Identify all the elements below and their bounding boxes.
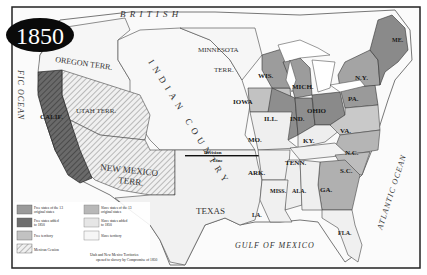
label-utah: UTAH TERR.	[76, 107, 116, 115]
legend-note-2: opened to slavery by Compromise of 1850	[96, 258, 157, 262]
label-pa: PA.	[348, 95, 359, 103]
svg-text:to 1850: to 1850	[34, 223, 45, 227]
legend-swatch-slave-added	[84, 218, 99, 227]
legend-swatch-slave-territory	[84, 231, 99, 240]
label-ga: GA.	[320, 186, 333, 194]
year-badge: 1850	[6, 18, 74, 52]
label-me: ME.	[392, 37, 404, 43]
label-sc: S.C.	[340, 167, 353, 175]
label-nc: N.C.	[345, 149, 359, 157]
legend-note: Utah and New Mexico Territories	[90, 253, 139, 257]
label-va: VA.	[340, 127, 351, 135]
label-tenn: TENN.	[285, 159, 306, 167]
label-iowa: IOWA	[233, 98, 252, 106]
label-ind: IND.	[290, 115, 305, 123]
legend-swatch-free-territory	[17, 231, 32, 240]
label-calif: CALIF.	[40, 113, 63, 121]
legend-swatch-mexican-cession	[17, 244, 32, 253]
label-minnesota: MINNESOTA	[198, 46, 239, 54]
label-british: B R I T I S H	[120, 9, 179, 19]
legend-swatch-free-original	[17, 205, 32, 214]
label-wis: WIS.	[258, 72, 274, 80]
label-ill: ILL.	[264, 115, 278, 123]
svg-text:Free territory: Free territory	[34, 234, 53, 238]
label-fla: FLA.	[338, 230, 352, 236]
label-minnesota-terr: TERR.	[214, 66, 234, 74]
label-ny: N.Y.	[355, 74, 368, 82]
svg-text:original states: original states	[101, 210, 122, 214]
label-division: Division	[204, 150, 222, 155]
svg-text:to 1850: to 1850	[101, 223, 112, 227]
svg-text:Slave territory: Slave territory	[101, 234, 122, 238]
division-line	[185, 155, 265, 156]
label-mo: MO.	[248, 136, 262, 144]
legend: Free states of the 13 original states Fr…	[15, 202, 157, 266]
label-texas: TEXAS	[196, 206, 225, 216]
label-ala: ALA.	[292, 188, 307, 194]
label-pacific-ocean: FIC OCEAN	[16, 69, 25, 120]
year-label: 1850	[16, 23, 64, 49]
label-division-line: Line	[213, 158, 224, 163]
legend-swatch-slave-original	[84, 205, 99, 214]
legend-swatch-free-added	[17, 218, 32, 227]
svg-text:Mexican Cession: Mexican Cession	[34, 248, 59, 252]
label-ky: KY.	[303, 137, 315, 145]
label-mich: MICH.	[292, 83, 314, 91]
historical-map-1850: 1850 B R I T I S H OREGON TERR. MINNESOT…	[0, 0, 427, 275]
label-ark: ARK.	[248, 169, 266, 177]
label-gulf-of-mexico: GULF OF MEXICO	[235, 241, 315, 250]
label-miss: MISS.	[270, 188, 287, 194]
label-ohio: OHIO	[307, 107, 327, 115]
svg-text:original states: original states	[34, 210, 55, 214]
label-la: LA.	[252, 212, 262, 218]
